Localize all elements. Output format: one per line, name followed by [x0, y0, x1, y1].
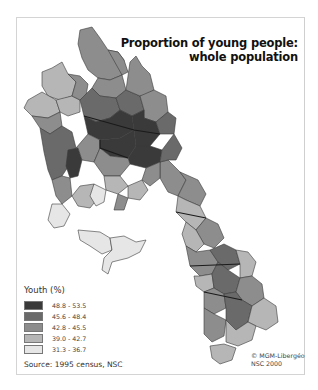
- legend-item: 39.0 - 42.7: [24, 333, 86, 344]
- copyright-line1: © MGM-Libergéo: [251, 352, 305, 360]
- province-sc-2: [104, 176, 128, 194]
- legend-label: 42.8 - 45.5: [52, 324, 86, 331]
- legend-item: 42.8 - 45.5: [24, 322, 86, 333]
- map-title-line1: Proportion of young people:: [121, 36, 298, 50]
- source-note: Source: 1995 census, NSC: [24, 360, 123, 369]
- map-legend: Youth (%) 48.8 - 53.5 45.6 - 48.4 42.8 -…: [24, 285, 86, 355]
- province-nw-1: [42, 62, 76, 100]
- legend-label: 31.3 - 36.7: [52, 346, 86, 353]
- legend-swatch: [24, 345, 43, 354]
- copyright-line2: NSC 2000: [251, 360, 305, 368]
- legend-swatch: [24, 312, 43, 321]
- legend-label: 48.8 - 53.5: [52, 302, 86, 309]
- legend-label: 45.6 - 48.4: [52, 313, 86, 320]
- province-sc-5: [114, 194, 128, 210]
- province-ec-2: [160, 134, 182, 162]
- legend-title: Youth (%): [24, 285, 86, 295]
- province-vientiane-1: [78, 230, 112, 254]
- legend-label: 39.0 - 42.7: [52, 335, 86, 342]
- province-s-tip: [210, 344, 236, 364]
- legend-swatch: [24, 334, 43, 343]
- legend-swatch: [24, 301, 43, 310]
- province-west-3: [52, 176, 72, 204]
- map-title-line2: whole population: [121, 50, 298, 64]
- legend-item: 31.3 - 36.7: [24, 344, 86, 355]
- map-title: Proportion of young people: whole popula…: [121, 36, 298, 64]
- legend-item: 45.6 - 48.4: [24, 311, 86, 322]
- province-sw-tip: [48, 204, 70, 228]
- copyright-note: © MGM-Libergéo NSC 2000: [251, 352, 305, 368]
- legend-item: 48.8 - 53.5: [24, 300, 86, 311]
- province-sc-3: [128, 180, 148, 200]
- legend-swatch: [24, 323, 43, 332]
